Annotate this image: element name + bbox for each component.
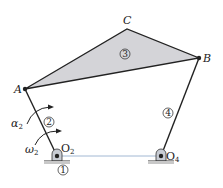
label-b: B: [202, 52, 211, 65]
link-label-1: 1: [58, 165, 68, 175]
coupler-link-3: [25, 29, 199, 89]
rocker-link-4: [161, 58, 199, 156]
label-c: C: [123, 14, 132, 27]
label-alpha2: α2: [11, 117, 23, 131]
link-label-2: 2: [44, 117, 54, 127]
joint-a: [23, 87, 27, 91]
label-o4: O4: [166, 150, 180, 164]
svg-text:2: 2: [46, 117, 52, 127]
label-omega2: ω2: [25, 143, 38, 157]
label-o2: O2: [61, 142, 75, 156]
four-bar-linkage-diagram: A B C O2 O4 α2 ω2 1 2 3 4: [0, 0, 223, 188]
joint-b: [197, 56, 201, 60]
svg-text:4: 4: [165, 108, 171, 118]
link-label-4: 4: [163, 108, 173, 118]
label-a: A: [13, 83, 22, 96]
svg-text:1: 1: [60, 165, 66, 175]
svg-text:3: 3: [122, 49, 128, 59]
